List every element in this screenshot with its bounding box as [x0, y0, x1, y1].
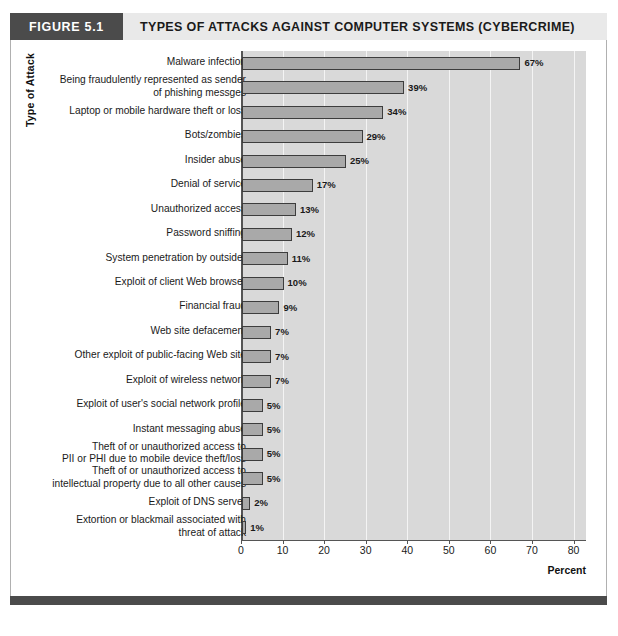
x-tick-label: 10 — [277, 544, 289, 556]
gridline — [574, 51, 575, 540]
bar-value-label: 5% — [267, 473, 281, 484]
bar-value-label: 67% — [524, 57, 543, 68]
bar-value-label: 9% — [283, 302, 297, 313]
bar-value-label: 34% — [387, 106, 406, 117]
bar-value-label: 2% — [254, 497, 268, 508]
category-label: Other exploit of public-facing Web site — [75, 349, 246, 362]
gridline — [532, 51, 533, 540]
bar-value-label: 7% — [275, 351, 289, 362]
bar — [242, 497, 250, 510]
x-tick-label: 50 — [443, 544, 455, 556]
bar-value-label: 11% — [292, 253, 311, 264]
gridline — [407, 51, 408, 540]
bar — [242, 448, 263, 461]
category-label: System penetration by outsider — [106, 252, 246, 265]
category-label: Malware infection — [167, 56, 246, 69]
x-tick-label: 80 — [568, 544, 580, 556]
bar — [242, 81, 404, 94]
bar — [242, 252, 288, 265]
gridline — [490, 51, 491, 540]
bar — [242, 106, 383, 119]
category-label: Financial fraud — [179, 300, 246, 313]
gridline — [283, 51, 284, 540]
bar-value-label: 10% — [288, 277, 307, 288]
bar — [242, 130, 363, 143]
bar — [242, 57, 520, 70]
category-label: Insider abuse — [185, 154, 246, 167]
bar — [242, 375, 271, 388]
figure-container: FIGURE 5.1 TYPES OF ATTACKS AGAINST COMP… — [10, 13, 607, 623]
bar — [242, 277, 284, 290]
bar-value-label: 29% — [367, 131, 386, 142]
bar-value-label: 7% — [275, 326, 289, 337]
category-label: Exploit of wireless network — [126, 374, 246, 387]
bar-value-label: 17% — [317, 179, 336, 190]
bar-value-label: 39% — [408, 82, 427, 93]
x-tick-label: 40 — [401, 544, 413, 556]
bar — [242, 228, 292, 241]
y-axis-title: Type of Attack — [24, 35, 36, 145]
x-tick-label: 0 — [238, 544, 244, 556]
figure-footer-bar — [10, 596, 607, 605]
category-label: Bots/zombies — [185, 129, 246, 142]
bar — [242, 203, 296, 216]
figure-header: FIGURE 5.1 TYPES OF ATTACKS AGAINST COMP… — [10, 13, 607, 40]
category-label: Exploit of client Web browser — [115, 276, 246, 289]
bar-value-label: 25% — [350, 155, 369, 166]
category-label: Exploit of DNS server — [149, 496, 246, 509]
category-label: Theft of or unauthorized access to intel… — [52, 465, 246, 490]
bar — [242, 179, 313, 192]
bar-value-label: 5% — [267, 448, 281, 459]
bar-value-label: 12% — [296, 228, 315, 239]
bar — [242, 326, 271, 339]
figure-body: Type of Attack 01020304050607080 Malware… — [10, 40, 607, 596]
x-tick-label: 30 — [360, 544, 372, 556]
bar — [242, 423, 263, 436]
bar — [242, 350, 271, 363]
plot-area — [241, 51, 586, 541]
bar-value-label: 5% — [267, 424, 281, 435]
bar-value-label: 7% — [275, 375, 289, 386]
bar — [242, 472, 263, 485]
bar-value-label: 1% — [250, 522, 264, 533]
bar — [242, 399, 263, 412]
x-axis-title: Percent — [547, 564, 586, 576]
bar-chart: Type of Attack 01020304050607080 Malware… — [11, 40, 608, 596]
category-label: Being fraudulently represented as sender… — [60, 74, 246, 99]
x-tick-label: 70 — [526, 544, 538, 556]
gridline — [366, 51, 367, 540]
x-tick-label: 20 — [318, 544, 330, 556]
category-label: Exploit of user's social network profile — [76, 398, 246, 411]
category-label: Web site defacement — [150, 325, 246, 338]
bar — [242, 155, 346, 168]
gridline — [324, 51, 325, 540]
bar — [242, 301, 279, 314]
bar-value-label: 5% — [267, 400, 281, 411]
x-tick-label: 60 — [485, 544, 497, 556]
figure-title: TYPES OF ATTACKS AGAINST COMPUTER SYSTEM… — [140, 13, 575, 40]
category-label: Instant messaging abuse — [133, 423, 246, 436]
category-label: Unauthorized access — [151, 203, 246, 216]
bar-value-label: 13% — [300, 204, 319, 215]
category-label: Laptop or mobile hardware theft or loss — [69, 105, 246, 118]
gridline — [449, 51, 450, 540]
category-label: Denial of service — [171, 178, 246, 191]
bar — [242, 521, 246, 534]
category-label: Password sniffing — [166, 227, 246, 240]
category-label: Theft of or unauthorized access to PII o… — [62, 441, 246, 466]
category-label: Extortion or blackmail associated with t… — [76, 514, 246, 539]
